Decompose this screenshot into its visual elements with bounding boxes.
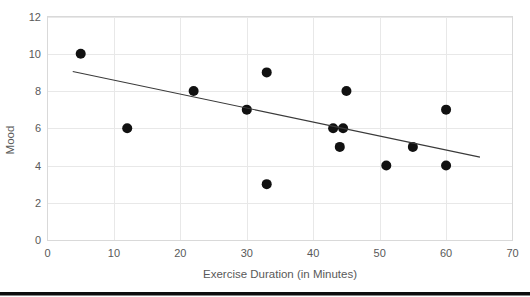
y-tick-label: 4 — [35, 160, 41, 172]
x-tick-label: 20 — [174, 247, 186, 259]
data-point — [76, 49, 86, 59]
x-tick-label: 70 — [506, 247, 518, 259]
chart-canvas: 024681012 010203040506070 Exercise Durat… — [0, 0, 530, 297]
x-tick-label: 30 — [241, 247, 253, 259]
y-tick-labels-group: 024681012 — [29, 11, 41, 247]
scatter-plot-figure: 024681012 010203040506070 Exercise Durat… — [0, 0, 530, 297]
x-tick-labels-group: 010203040506070 — [44, 247, 518, 259]
data-point — [441, 161, 451, 171]
data-point — [341, 86, 351, 96]
data-point — [262, 67, 272, 77]
data-point — [122, 123, 132, 133]
data-point — [381, 161, 391, 171]
y-axis-title: Mood — [4, 126, 16, 155]
y-tick-label: 0 — [35, 234, 41, 246]
data-markers-group — [76, 49, 451, 189]
bottom-divider-rule — [0, 292, 530, 296]
y-tick-label: 2 — [35, 197, 41, 209]
gridlines-group — [48, 17, 513, 241]
x-tick-label: 50 — [374, 247, 386, 259]
y-tick-label: 8 — [35, 85, 41, 97]
x-tick-label: 40 — [307, 247, 319, 259]
y-tick-label: 6 — [35, 122, 41, 134]
data-point — [335, 142, 345, 152]
data-point — [242, 105, 252, 115]
x-axis-title: Exercise Duration (in Minutes) — [203, 268, 357, 280]
data-point — [262, 179, 272, 189]
y-tick-label: 12 — [29, 11, 41, 23]
trendline — [73, 71, 480, 157]
data-point — [441, 105, 451, 115]
data-point — [328, 123, 338, 133]
data-point — [189, 86, 199, 96]
y-tick-label: 10 — [29, 48, 41, 60]
x-tick-label: 0 — [44, 247, 50, 259]
x-tick-label: 60 — [440, 247, 452, 259]
x-tick-label: 10 — [108, 247, 120, 259]
